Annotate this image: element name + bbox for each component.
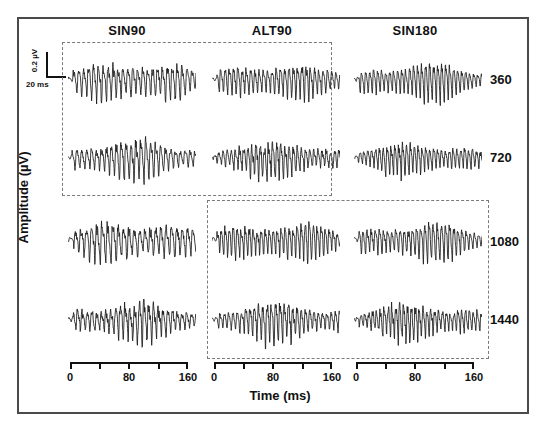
x-axis-tick <box>99 362 101 369</box>
row-label-720: 720 <box>490 150 542 165</box>
x-axis-tick <box>243 362 245 369</box>
waveform-panel-sin90-360 <box>68 48 196 110</box>
x-axis-sin90: 080160 <box>70 362 188 390</box>
x-axis-tick <box>472 362 474 369</box>
x-axis-sin180: 080160 <box>356 362 474 390</box>
scale-bar-time-label: 20 ms <box>26 80 49 89</box>
scale-bar: 0.2 µV 20 ms <box>26 50 70 98</box>
x-axis-tick <box>302 362 304 369</box>
x-axis-tick <box>158 362 160 369</box>
scale-bar-horizontal-line <box>46 76 66 78</box>
waveform-panel-sin90-1440 <box>68 288 196 350</box>
waveform-panel-alt90-720 <box>212 126 340 188</box>
column-header-sin90: SIN90 <box>62 23 192 38</box>
x-axis-tick <box>70 362 72 369</box>
column-header-sin180: SIN180 <box>350 23 480 38</box>
scale-bar-amplitude-label: 0.2 µV <box>30 39 39 83</box>
x-axis-tick <box>272 362 274 369</box>
x-axis-tick <box>186 362 188 369</box>
row-label-1440: 1440 <box>490 312 542 327</box>
waveform-panel-sin90-1080 <box>68 208 196 270</box>
x-axis-tick-label: 80 <box>123 371 135 383</box>
column-header-alt90: ALT90 <box>207 23 337 38</box>
x-axis-tick-label: 0 <box>211 371 217 383</box>
y-axis-title: Amplitude (µV) <box>16 113 31 283</box>
x-axis-tick <box>444 362 446 369</box>
figure-root: SIN90 ALT90 SIN180 360 720 1080 1440 Amp… <box>0 0 546 431</box>
x-axis-title: Time (ms) <box>200 388 360 403</box>
x-axis-tick <box>128 362 130 369</box>
x-axis-tick-label: 160 <box>465 371 483 383</box>
row-label-1080: 1080 <box>490 234 542 249</box>
x-axis-tick-label: 80 <box>267 371 279 383</box>
row-label-360: 360 <box>490 72 542 87</box>
waveform-panel-alt90-1440 <box>212 288 340 350</box>
x-axis-tick-label: 160 <box>179 371 197 383</box>
waveform-panel-sin180-720 <box>354 126 482 188</box>
waveform-panel-sin180-1080 <box>354 208 482 270</box>
waveform-panel-sin180-1440 <box>354 288 482 350</box>
x-axis-alt90: 080160 <box>214 362 332 390</box>
x-axis-tick <box>356 362 358 369</box>
waveform-panel-alt90-360 <box>212 48 340 110</box>
x-axis-tick-label: 0 <box>353 371 359 383</box>
x-axis-tick <box>214 362 216 369</box>
x-axis-tick <box>414 362 416 369</box>
x-axis-tick-label: 0 <box>67 371 73 383</box>
x-axis-tick <box>385 362 387 369</box>
scale-bar-vertical-line <box>46 52 48 78</box>
x-axis-tick-label: 80 <box>409 371 421 383</box>
x-axis-tick <box>330 362 332 369</box>
waveform-panel-sin180-360 <box>354 48 482 110</box>
waveform-panel-sin90-720 <box>68 126 196 188</box>
waveform-panel-alt90-1080 <box>212 208 340 270</box>
x-axis-tick-label: 160 <box>323 371 341 383</box>
